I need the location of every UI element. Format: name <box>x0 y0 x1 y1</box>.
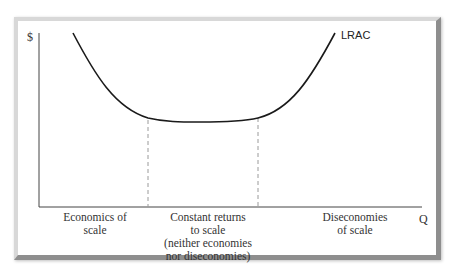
region-label-economies: Economics of scale <box>50 211 140 237</box>
region-label-line: nor diseconomies) <box>148 250 268 263</box>
region-label-line: Constant returns <box>148 211 268 224</box>
region-label-line: scale <box>50 224 140 237</box>
region-label-line: of scale <box>310 224 400 237</box>
curve-label: LRAC <box>341 29 370 41</box>
x-axis-label: Q <box>419 212 428 226</box>
region-label-line: to scale <box>148 224 268 237</box>
region-label-line: (neither economies <box>148 237 268 250</box>
region-label-constant-returns: Constant returns to scale (neither econo… <box>148 211 268 263</box>
region-label-diseconomies: Diseconomies of scale <box>310 211 400 237</box>
lrac-curve <box>73 33 335 122</box>
region-label-line: Diseconomies <box>310 211 400 224</box>
y-axis-label: $ <box>27 30 33 44</box>
region-label-line: Economics of <box>50 211 140 224</box>
